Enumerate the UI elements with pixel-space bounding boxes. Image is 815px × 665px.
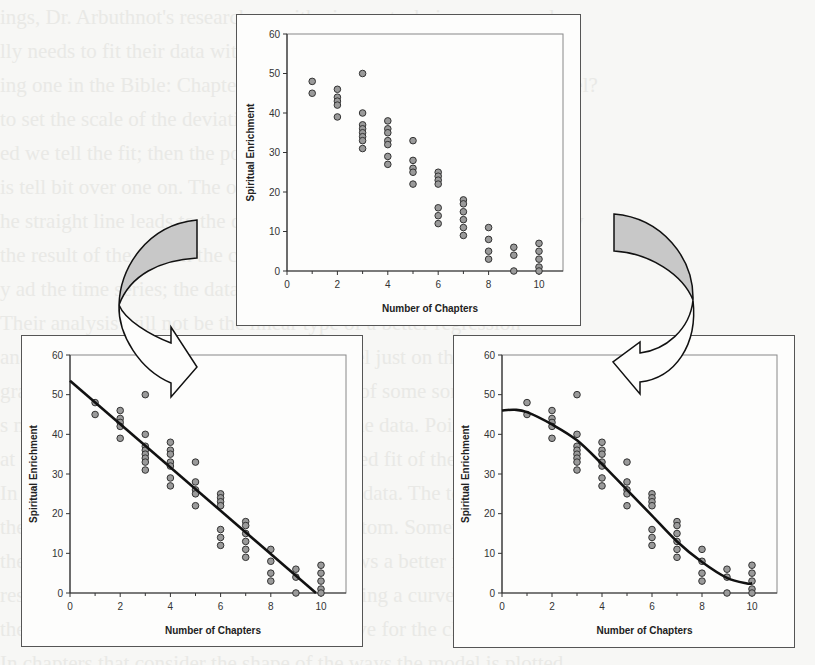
data-point [359,145,366,152]
x-tick-label: 10 [315,601,327,612]
y-axis-title: Spiritual Enrichment [460,424,471,522]
y-tick-label: 20 [269,187,281,198]
data-point [217,542,224,549]
data-point [117,407,124,414]
y-tick-label: 0 [274,266,280,277]
x-axis-title: Number of Chapters [382,303,479,314]
data-point [167,475,174,482]
data-point [624,479,631,486]
y-tick-label: 0 [57,588,63,599]
y-tick-label: 60 [52,350,64,361]
data-point [410,169,417,176]
data-point [549,407,556,414]
data-point [167,483,174,490]
data-point [511,244,518,251]
data-point [649,534,656,541]
data-point [699,578,706,585]
data-point [724,590,731,597]
data-point [242,554,249,561]
x-tick-label: 0 [284,279,290,290]
data-point [92,411,99,418]
y-tick-label: 10 [484,548,496,559]
data-point [334,102,341,109]
data-point [142,391,149,398]
x-tick-label: 6 [435,279,441,290]
y-tick-label: 10 [269,226,281,237]
data-point [318,570,325,577]
data-point [485,256,492,263]
y-tick-label: 40 [269,108,281,119]
data-point [674,522,681,529]
data-point [574,467,581,474]
data-point [359,110,366,117]
x-tick-label: 0 [67,601,73,612]
y-tick-label: 0 [489,588,495,599]
data-point [142,467,149,474]
data-point [435,220,442,227]
data-point [460,232,467,239]
data-point [385,141,392,148]
data-point [435,212,442,219]
data-point [385,129,392,136]
data-point [217,526,224,533]
x-tick-label: 8 [486,279,492,290]
data-point [309,90,316,97]
data-point [699,546,706,553]
y-tick-label: 20 [484,508,496,519]
x-tick-label: 2 [117,601,123,612]
data-point [511,268,518,275]
x-tick-label: 10 [746,601,758,612]
x-tick-label: 2 [549,601,555,612]
x-tick-label: 4 [385,279,391,290]
data-point [749,562,756,569]
chart-bottom_right: 01020304050600246810Number of ChaptersSp… [460,350,777,637]
y-tick-label: 10 [52,548,64,559]
charts-canvas: 01020304050600246810Number of ChaptersSp… [0,0,815,665]
data-point [485,236,492,243]
data-point [359,137,366,144]
data-point [624,459,631,466]
y-axis-title: Spiritual Enrichment [245,103,256,201]
data-point [699,570,706,577]
data-point [242,538,249,545]
y-tick-label: 50 [52,389,64,400]
y-tick-label: 60 [269,29,281,40]
y-tick-label: 40 [52,429,64,440]
data-point [268,558,275,565]
plot-area [70,355,346,593]
data-point [217,534,224,541]
data-point [359,70,366,77]
y-tick-label: 30 [269,147,281,158]
x-tick-label: 2 [335,279,341,290]
data-point [435,205,442,212]
data-point [749,570,756,577]
data-point [385,153,392,160]
data-point [599,451,606,458]
data-point [574,431,581,438]
plot-area [287,34,563,271]
data-point [309,78,316,85]
y-axis-title: Spiritual Enrichment [28,424,39,522]
x-tick-label: 4 [599,601,605,612]
data-point [410,157,417,164]
data-point [724,566,731,573]
data-point [385,161,392,168]
data-point [268,578,275,585]
data-point [649,526,656,533]
data-point [460,208,467,215]
data-point [318,578,325,585]
data-point [574,459,581,466]
x-tick-label: 8 [268,601,274,612]
data-point [192,502,199,509]
data-point [749,590,756,597]
data-point [318,590,325,597]
x-axis-title: Number of Chapters [596,625,693,636]
data-point [460,201,467,208]
data-point [334,86,341,93]
data-point [536,268,543,275]
data-point [511,252,518,259]
data-point [167,439,174,446]
y-tick-label: 60 [484,350,496,361]
data-point [674,530,681,537]
data-point [117,435,124,442]
